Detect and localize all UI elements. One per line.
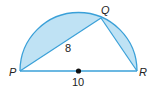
segment-label-pr: 10	[72, 76, 84, 88]
segment-label-pq: 8	[65, 42, 71, 54]
point-label-p: P	[9, 66, 17, 78]
semicircle-diagram: P Q R 8 10	[0, 0, 151, 92]
center-point-dot	[76, 68, 81, 73]
point-label-r: R	[139, 66, 147, 78]
point-label-q: Q	[101, 4, 110, 16]
